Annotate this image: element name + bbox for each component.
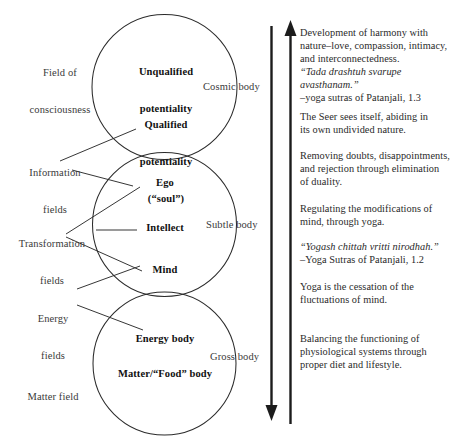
inner-label-qualified-potentiality: Qualified potentiality (“soul”): [120, 94, 212, 230]
note-cessation: Yoga is the cessation of the fluctuation…: [300, 281, 460, 307]
body-label-cosmic-body: Cosmic body: [203, 81, 260, 93]
note-line: proper diet and lifestyle.: [300, 359, 460, 372]
field-label-line-2: fields: [20, 350, 86, 362]
note-line: The Seer sees itself, abiding in: [300, 111, 460, 124]
field-label-line-1: Transformation: [5, 238, 99, 250]
inner-label-line-1: Unqualified: [120, 66, 212, 78]
inner-label-mind: Mind: [136, 264, 194, 276]
field-label-field-of-consciousness: Field of consciousness: [14, 42, 106, 141]
diagram-canvas: Field of consciousness Information field…: [0, 0, 462, 445]
note-line: of duality.: [300, 176, 460, 189]
circle-gross-body: [93, 292, 236, 435]
note-line-sanskrit: “Yogash chittah vritti nirodhah.”: [300, 241, 460, 254]
note-line-citation: –yoga sutras of Patanjali, 1.3: [300, 92, 460, 105]
note-doubts: Removing doubts, disappointments, and re…: [300, 150, 460, 189]
note-balancing: Balancing the functioning of physiologic…: [300, 333, 460, 372]
field-label-line-1: Field of: [14, 67, 106, 79]
note-line: Yoga is the cessation of the: [300, 281, 460, 294]
inner-label-line-3: (“soul”): [120, 193, 212, 205]
inner-label-energy-body: Energy body: [116, 333, 214, 345]
note-line: physiological systems through: [300, 346, 460, 359]
field-label-line-2: fields: [5, 275, 99, 287]
note-line: fluctuations of mind.: [300, 294, 460, 307]
field-label-line-1: Energy: [20, 313, 86, 325]
inner-label-ego: Ego: [136, 177, 194, 189]
note-line: and rejection through elimination: [300, 163, 460, 176]
body-label-gross-body: Gross body: [210, 351, 259, 363]
field-label-line-1: Information: [10, 167, 100, 179]
note-line: Balancing the functioning of: [300, 333, 460, 346]
note-line: Regulating the modifications of: [300, 203, 460, 216]
upward-arrow-head: [285, 20, 297, 36]
note-line: and interconnectedness.: [300, 53, 460, 66]
downward-arrow-head: [266, 405, 278, 421]
note-line: nature–love, compassion, intimacy,: [300, 40, 460, 53]
note-seer: The Seer sees itself, abiding in its own…: [300, 111, 460, 137]
note-line: Development of harmony with: [300, 27, 460, 40]
note-regulating: Regulating the modifications of mind, th…: [300, 203, 460, 229]
inner-label-line-2: potentiality: [120, 156, 212, 168]
inner-label-line-1: Qualified: [120, 119, 212, 131]
inner-label-matter-food-body: Matter/“Food” body: [101, 368, 229, 380]
note-harmony: Development of harmony with nature–love,…: [300, 27, 460, 105]
note-line-sanskrit: “Tada drashtuh svarupe: [300, 66, 460, 79]
note-line: mind, through yoga.: [300, 216, 460, 229]
note-line-citation: –Yoga Sutras of Patanjali, 1.2: [300, 254, 460, 267]
note-line: its own undivided nature.: [300, 124, 460, 137]
body-label-subtle-body: Subtle body: [206, 219, 258, 231]
inner-label-intellect: Intellect: [132, 222, 198, 234]
field-label-line-2: consciousness: [14, 104, 106, 116]
note-yogash: “Yogash chittah vritti nirodhah.” –Yoga …: [300, 241, 460, 267]
note-line: Removing doubts, disappointments,: [300, 150, 460, 163]
field-label-line-1: Matter field: [14, 391, 92, 403]
field-label-matter-field: Matter field: [14, 366, 92, 428]
note-line-sanskrit: avasthanam.”: [300, 79, 460, 92]
